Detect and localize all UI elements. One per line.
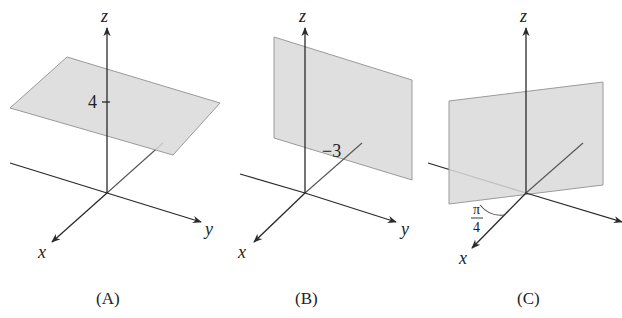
x-axis-label: x	[37, 242, 46, 262]
panel-c: π 4 z x (C)	[428, 6, 622, 308]
y-axis	[305, 193, 396, 222]
plane-z-4	[10, 57, 220, 155]
caption-a: (A)	[96, 289, 120, 308]
z-axis-label: z	[298, 6, 306, 26]
caption-b: (B)	[295, 289, 318, 308]
angle-arc	[480, 205, 504, 215]
y-axis	[526, 193, 622, 222]
negative-y-axis	[240, 174, 305, 193]
label-4: 4	[88, 92, 97, 112]
y-axis-label: y	[399, 219, 409, 239]
y-axis-label: y	[203, 219, 213, 239]
z-axis-label: z	[100, 6, 108, 26]
label-neg3: −3	[322, 141, 341, 161]
panel-a: 4 z y x (A)	[10, 6, 220, 308]
x-axis-label: x	[458, 248, 467, 268]
panel-b: −3 z y x (B)	[237, 6, 412, 308]
negative-y-axis	[10, 163, 107, 193]
negative-x-axis	[107, 143, 163, 193]
x-axis-label: x	[237, 242, 246, 262]
x-axis	[52, 193, 107, 242]
z-axis-label: z	[519, 6, 527, 26]
angle-denominator: 4	[473, 220, 480, 235]
y-axis	[107, 193, 201, 222]
x-axis	[472, 193, 526, 248]
figure-canvas: 4 z y x (A) −3 z y x (B)	[0, 0, 622, 318]
angle-numerator: π	[473, 202, 480, 217]
plane-y-neg3	[274, 37, 412, 180]
caption-c: (C)	[517, 289, 540, 308]
x-axis	[254, 193, 305, 242]
